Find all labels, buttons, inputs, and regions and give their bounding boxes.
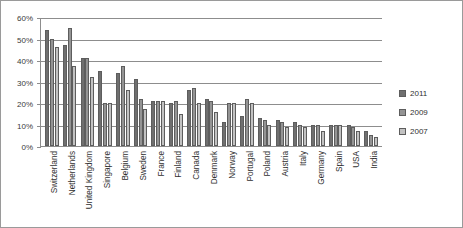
x-axis-category-label: United Kingdom <box>86 151 94 209</box>
bar <box>267 125 271 147</box>
bar <box>303 127 307 146</box>
bar <box>334 125 338 147</box>
x-axis-category: Singapore <box>95 149 113 227</box>
chart-legend: 201120092007 <box>399 89 459 146</box>
legend-swatch-icon <box>399 128 406 135</box>
legend-swatch-icon <box>399 109 406 116</box>
x-axis-category-label: Norway <box>229 151 237 179</box>
x-axis-category: Denmark <box>202 149 220 227</box>
bar <box>45 30 49 146</box>
bar <box>232 103 236 146</box>
legend-item[interactable]: 2009 <box>399 108 459 117</box>
x-axis-category-labels: SwitzerlandNetherlandsUnited KingdomSing… <box>40 149 382 227</box>
bar <box>103 103 107 146</box>
bar <box>50 39 54 147</box>
legend-label: 2011 <box>410 89 427 98</box>
x-axis-category: USA <box>345 149 363 227</box>
bar <box>68 28 72 146</box>
bar-group <box>309 18 327 146</box>
bar <box>374 137 378 146</box>
x-axis-category: Switzerland <box>42 149 60 227</box>
bar-groups <box>41 18 382 146</box>
bar <box>126 90 130 146</box>
bar <box>240 116 244 146</box>
x-axis-category: Austria <box>273 149 291 227</box>
plot-area <box>40 18 382 147</box>
bar <box>298 125 302 147</box>
bar <box>258 118 262 146</box>
x-axis-category: Spain <box>327 149 345 227</box>
bar <box>156 101 160 146</box>
y-axis-labels: 0%10%20%30%40%50%60% <box>1 1 38 228</box>
x-axis-category: Norway <box>220 149 238 227</box>
x-axis-category-label: Poland <box>264 151 272 177</box>
bar-group <box>96 18 114 146</box>
bar-group <box>238 18 256 146</box>
x-axis-category-label: Denmark <box>211 151 219 184</box>
bar <box>293 122 297 146</box>
bar <box>116 73 120 146</box>
bar <box>197 103 201 146</box>
bar <box>329 125 333 147</box>
y-axis-tick-label: 10% <box>17 121 33 130</box>
x-axis-category: Netherlands <box>60 149 78 227</box>
bar <box>351 127 355 146</box>
bar <box>369 135 373 146</box>
x-axis-category: Portugal <box>238 149 256 227</box>
x-axis-category-label: Belgium <box>122 151 130 181</box>
bar <box>108 103 112 146</box>
bar-group <box>167 18 185 146</box>
x-axis-category: France <box>149 149 167 227</box>
bar <box>98 71 102 146</box>
bar-group <box>274 18 292 146</box>
bar <box>63 45 67 146</box>
x-axis-category-label: USA <box>353 151 361 168</box>
bar <box>161 101 165 146</box>
bar-group <box>132 18 150 146</box>
bar <box>285 127 289 146</box>
bar <box>55 47 59 146</box>
legend-item[interactable]: 2011 <box>399 89 459 98</box>
bar-group <box>61 18 79 146</box>
bar <box>316 125 320 147</box>
bar-group <box>291 18 309 146</box>
x-axis-category: Sweden <box>131 149 149 227</box>
y-axis-tick-label: 20% <box>17 100 33 109</box>
bar <box>139 99 143 146</box>
x-axis-category-label: Singapore <box>104 151 112 188</box>
x-axis-category: Italy <box>291 149 309 227</box>
bar-group <box>185 18 203 146</box>
y-axis-tick <box>37 147 41 148</box>
bar <box>169 103 173 146</box>
bar <box>222 122 226 146</box>
legend-swatch-icon <box>399 90 406 97</box>
legend-item[interactable]: 2007 <box>399 127 459 136</box>
y-axis-tick-label: 0% <box>21 143 33 152</box>
bar <box>214 112 218 146</box>
bar-group <box>327 18 345 146</box>
x-axis-category-label: Canada <box>193 151 201 180</box>
x-axis-category: India <box>362 149 380 227</box>
x-axis-category-label: India <box>371 151 379 169</box>
bar-group <box>256 18 274 146</box>
bar <box>192 88 196 146</box>
y-axis-tick-label: 60% <box>17 14 33 23</box>
bar <box>364 131 368 146</box>
x-axis-category-label: Sweden <box>140 151 148 181</box>
bar <box>245 99 249 146</box>
bar <box>250 103 254 146</box>
bar-group <box>114 18 132 146</box>
bar <box>205 99 209 146</box>
x-axis-category: Germany <box>309 149 327 227</box>
bar <box>81 58 85 146</box>
bar <box>151 101 155 146</box>
bar <box>143 109 147 146</box>
x-axis-category-label: Austria <box>282 151 290 176</box>
x-axis-category-label: Netherlands <box>69 151 77 195</box>
bar <box>174 101 178 146</box>
bar <box>338 125 342 147</box>
bar <box>121 66 125 146</box>
bar <box>280 122 284 146</box>
x-axis-category: Poland <box>256 149 274 227</box>
bar-group <box>362 18 380 146</box>
